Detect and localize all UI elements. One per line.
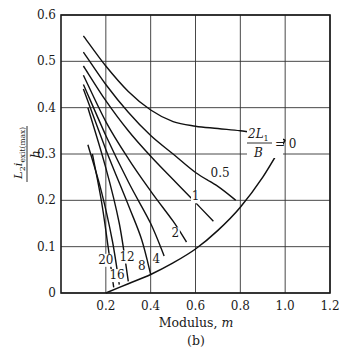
curve-label: 1: [192, 189, 200, 203]
x-axis-label: Modulus, m: [159, 315, 234, 330]
y-tick-label: 0.1: [37, 240, 56, 254]
x-tick-label: 0.4: [141, 299, 160, 313]
x-tick-label: 0.6: [186, 299, 205, 313]
x-tick-label: 1.0: [276, 299, 295, 313]
curve-2: [83, 75, 186, 242]
y-axis-label: L2iexit(max) h: [11, 126, 43, 182]
curve-label: 2: [172, 226, 180, 240]
curve-label: 20: [98, 253, 113, 267]
param-num: 2L: [247, 127, 264, 141]
y-tick-label: 0.2: [37, 193, 56, 207]
curve-label: 8: [138, 259, 146, 273]
y-tick-label: 0: [48, 286, 56, 300]
param-eq: = 0: [275, 137, 297, 151]
svg-text:L2iexit(max): L2iexit(max): [11, 127, 27, 180]
curve-label: 0.5: [211, 166, 230, 180]
svg-text:h: h: [29, 150, 43, 158]
curve-label: 12: [119, 250, 134, 264]
x-tick-label: 0.2: [96, 299, 115, 313]
x-tick-label: 1.2: [320, 299, 339, 313]
y-tick-label: 0.6: [37, 8, 56, 22]
curve-label: 16: [109, 268, 124, 282]
param-den: B: [253, 146, 263, 160]
y-tick-label: 0.5: [37, 54, 56, 68]
parameter-curves: [83, 36, 285, 288]
figure-subtitle: (b): [187, 333, 205, 348]
chart: 00.10.20.30.40.50.6 0.20.40.60.81.01.2 0…: [0, 0, 347, 350]
parameter-label: 2L1 B = 0: [247, 124, 297, 160]
y-tick-label: 0.4: [37, 101, 56, 115]
x-tick-label: 0.8: [231, 299, 250, 313]
curve-labels: 0.51248121620: [98, 166, 232, 282]
param-sub: 1: [264, 134, 269, 143]
x-axis-tick-labels: 0.20.40.60.81.01.2: [96, 299, 339, 313]
curve-label: 4: [152, 252, 160, 266]
